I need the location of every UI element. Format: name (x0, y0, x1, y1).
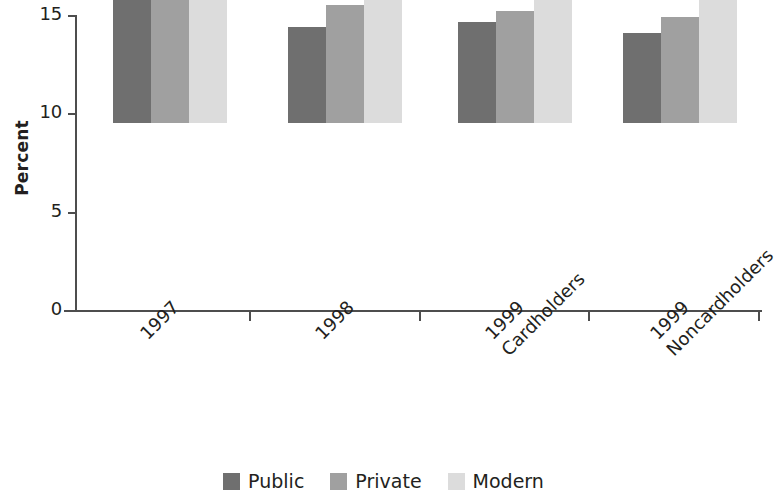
x-axis-group-tick (249, 312, 251, 321)
bar-private-3 (661, 17, 699, 123)
legend-swatch-private-icon (330, 473, 347, 490)
bar-private-2 (496, 11, 534, 123)
bar-public-1 (288, 27, 326, 123)
x-axis-group-tick (588, 312, 590, 321)
bar-modern-1 (364, 0, 402, 123)
legend-item-private[interactable]: Private (330, 472, 421, 491)
bar-modern-3 (699, 0, 737, 123)
bar-private-1 (326, 5, 364, 123)
bar-modern-0 (189, 0, 227, 123)
legend-swatch-modern-icon (448, 473, 465, 490)
bar-public-2 (458, 22, 496, 123)
x-axis-group-tick (419, 312, 421, 321)
bar-modern-2 (534, 0, 572, 123)
x-axis-group-tick (758, 312, 760, 321)
legend-item-modern[interactable]: Modern (448, 472, 544, 491)
bar-private-0 (151, 0, 189, 123)
legend-label: Public (248, 472, 304, 491)
bar-public-3 (623, 33, 661, 123)
bar-public-0 (113, 0, 151, 123)
chart-legend: PublicPrivateModern (0, 466, 767, 496)
legend-label: Modern (473, 472, 544, 491)
legend-swatch-public-icon (223, 473, 240, 490)
plot-area (0, 0, 767, 312)
legend-label: Private (355, 472, 421, 491)
legend-item-public[interactable]: Public (223, 472, 304, 491)
